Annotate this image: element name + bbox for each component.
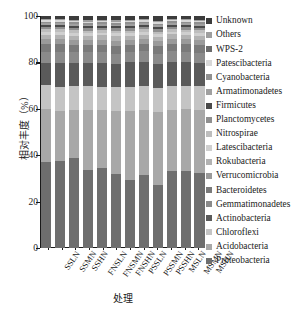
- legend-swatch-icon: [206, 89, 212, 95]
- bar-segment: [181, 86, 191, 110]
- legend-label: WPS-2: [216, 45, 243, 54]
- bar-segment: [41, 52, 51, 63]
- bar-column[interactable]: [153, 16, 163, 248]
- bar-segment: [153, 112, 163, 184]
- bar-column[interactable]: [83, 16, 93, 248]
- legend-item[interactable]: Cyanobacteria: [206, 70, 302, 84]
- bar-segment: [167, 62, 177, 86]
- legend-label: Gemmatimonadetes: [216, 200, 290, 209]
- bar-column[interactable]: [97, 16, 107, 248]
- legend-item[interactable]: Latescibacteria: [206, 141, 302, 155]
- bar-segment: [41, 63, 51, 85]
- legend-item[interactable]: WPS-2: [206, 42, 302, 56]
- bar-segment: [111, 174, 121, 248]
- bar-segment: [111, 54, 121, 64]
- legend-item[interactable]: Gemmatimonadetes: [206, 197, 302, 211]
- legend-label: Cyanobacteria: [216, 73, 270, 82]
- bar-segment: [139, 86, 149, 110]
- legend-swatch-icon: [206, 103, 212, 109]
- bar-segment: [83, 45, 93, 52]
- bar-segment: [41, 85, 51, 109]
- bar-segment: [69, 110, 79, 158]
- bar-segment: [41, 162, 51, 248]
- bar-segment: [125, 111, 135, 180]
- y-axis-tick-labels: 020406080100: [14, 16, 38, 248]
- legend-label: Acidobacteria: [216, 242, 268, 251]
- bar-segment: [97, 168, 107, 248]
- bar-segment: [97, 87, 107, 110]
- legend-item[interactable]: Patescibacteria: [206, 56, 302, 70]
- bar-segment: [167, 171, 177, 248]
- bar-segment: [83, 52, 93, 62]
- legend-item[interactable]: Proteobacteria: [206, 254, 302, 268]
- bar-segment: [167, 110, 177, 171]
- x-axis-tick-labels: SSLNSSMNSSHNFNSLNFNSMNFNSHNPSSLNPSSMNPSS…: [41, 249, 205, 289]
- bar-column[interactable]: [125, 16, 135, 248]
- bar-column[interactable]: [41, 16, 51, 248]
- x-axis-title: 处理: [41, 290, 205, 305]
- bar-segment: [69, 86, 79, 110]
- bar-column[interactable]: [69, 16, 79, 248]
- legend-swatch-icon: [206, 258, 212, 264]
- bar-segment: [125, 52, 135, 62]
- bar-segment: [125, 87, 135, 111]
- legend-swatch-icon: [206, 32, 212, 38]
- legend-swatch-icon: [206, 117, 212, 123]
- legend-swatch-icon: [206, 46, 212, 52]
- bar-segment: [69, 63, 79, 86]
- bar-segment: [41, 109, 51, 162]
- legend-label: Unknown: [216, 16, 253, 25]
- legend-item[interactable]: Planctomycetes: [206, 113, 302, 127]
- bar-segment: [83, 110, 93, 170]
- bar-segment: [153, 54, 163, 65]
- legend-label: Actinobacteria: [216, 214, 271, 223]
- bar-segment: [83, 63, 93, 87]
- legend-label: Patescibacteria: [216, 59, 272, 68]
- bar-column[interactable]: [181, 16, 191, 248]
- legend-item[interactable]: Nitrospirae: [206, 127, 302, 141]
- bar-column[interactable]: [194, 16, 204, 248]
- legend-item[interactable]: Armatimonadetes: [206, 84, 302, 98]
- y-tick-mark: [36, 109, 40, 110]
- bar-column[interactable]: [55, 16, 65, 248]
- bar-segment: [41, 44, 51, 52]
- y-tick-mark: [36, 248, 40, 249]
- bar-column[interactable]: [111, 16, 121, 248]
- legend-item[interactable]: Firmicutes: [206, 99, 302, 113]
- bar-segment: [139, 51, 149, 61]
- bar-segment: [55, 111, 65, 161]
- bar-segment: [153, 88, 163, 113]
- legend-swatch-icon: [206, 145, 212, 151]
- legend-swatch-icon: [206, 131, 212, 137]
- bar-segment: [97, 45, 107, 53]
- bar-segment: [153, 185, 163, 248]
- legend-swatch-icon: [206, 60, 212, 66]
- legend-label: Others: [216, 30, 241, 39]
- plot-area: [41, 16, 205, 248]
- y-tick-mark: [36, 202, 40, 203]
- bar-segment: [55, 63, 65, 87]
- bar-segment: [69, 45, 79, 52]
- legend-item[interactable]: Others: [206, 28, 302, 42]
- legend-item[interactable]: Actinobacteria: [206, 211, 302, 225]
- bar-column[interactable]: [167, 16, 177, 248]
- bar-segment: [181, 62, 191, 86]
- legend-item[interactable]: Bacteroidetes: [206, 183, 302, 197]
- bar-segment: [139, 44, 149, 52]
- bar-segment: [125, 62, 135, 86]
- bar-segment: [69, 158, 79, 248]
- bar-column[interactable]: [139, 16, 149, 248]
- stacked-bar-chart: 相对丰度（%） 020406080100 SSLNSSMNSSHNFNSLNFN…: [0, 0, 303, 310]
- legend-item[interactable]: Acidobacteria: [206, 240, 302, 254]
- bar-segment: [97, 63, 107, 87]
- bar-segment: [55, 44, 65, 52]
- bar-segment: [111, 111, 121, 174]
- legend-item[interactable]: Rokubacteria: [206, 155, 302, 169]
- legend-item[interactable]: Unknown: [206, 14, 302, 28]
- y-tick-mark: [36, 62, 40, 63]
- bar-segment: [181, 44, 191, 51]
- legend-item[interactable]: Verrucomicrobia: [206, 169, 302, 183]
- legend-item[interactable]: Chloroflexi: [206, 225, 302, 239]
- legend-label: Chloroflexi: [216, 228, 259, 237]
- legend-swatch-icon: [206, 74, 212, 80]
